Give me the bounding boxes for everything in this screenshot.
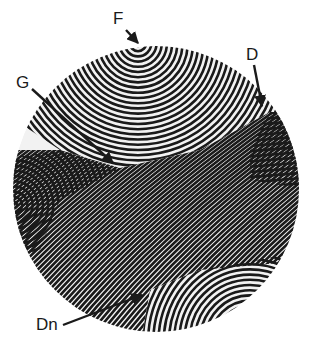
arrow-F: [126, 30, 138, 43]
label-Dn: Dn: [36, 316, 58, 333]
label-G: G: [16, 74, 29, 91]
micrograph-svg: [0, 0, 312, 348]
stripe-disc: [0, 0, 312, 348]
stripe-pattern-micrograph: F G D Dn: [0, 0, 312, 348]
label-D: D: [246, 46, 258, 63]
label-F: F: [113, 10, 123, 27]
